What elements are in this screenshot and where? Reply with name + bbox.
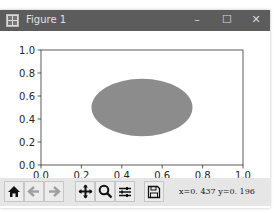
x-tick-label: 0.8 bbox=[195, 170, 211, 178]
maximize-button[interactable]: ☐ bbox=[218, 13, 236, 27]
home-icon bbox=[7, 185, 21, 198]
figure-canvas[interactable]: 0.00.20.40.60.81.00.00.20.40.60.81.0 bbox=[0, 31, 270, 178]
zoom-button[interactable] bbox=[95, 181, 115, 202]
x-tick-label: 0.6 bbox=[154, 170, 170, 178]
magnifier-icon bbox=[98, 184, 113, 199]
matplotlib-app-icon bbox=[6, 14, 19, 27]
minimize-button[interactable]: – bbox=[188, 13, 206, 27]
y-tick-label: 0.0 bbox=[19, 160, 35, 171]
y-tick-label: 0.8 bbox=[19, 68, 35, 79]
y-tick-label: 1.0 bbox=[19, 45, 35, 56]
forward-button[interactable] bbox=[44, 181, 64, 202]
ellipse-patch bbox=[92, 79, 193, 137]
move-icon bbox=[78, 184, 93, 199]
pan-button[interactable] bbox=[75, 181, 95, 202]
plot-svg[interactable]: 0.00.20.40.60.81.00.00.20.40.60.81.0 bbox=[0, 31, 270, 178]
x-tick-label: 1.0 bbox=[235, 170, 251, 178]
y-tick-label: 0.4 bbox=[19, 114, 35, 125]
back-button[interactable] bbox=[24, 181, 44, 202]
close-button[interactable]: ✕ bbox=[247, 13, 265, 27]
home-button[interactable] bbox=[4, 181, 24, 202]
save-button[interactable] bbox=[144, 181, 164, 202]
title-bar[interactable]: Figure 1 – ☐ ✕ bbox=[0, 10, 270, 31]
x-tick-label: 0.2 bbox=[73, 170, 89, 178]
arrow-right-icon bbox=[47, 185, 61, 198]
cursor-coordinates: x=0. 437 y=0. 196 bbox=[179, 187, 255, 196]
navigation-toolbar: x=0. 437 y=0. 196 bbox=[0, 178, 270, 206]
floppy-disk-icon bbox=[147, 185, 161, 199]
configure-subplots-button[interactable] bbox=[115, 181, 135, 202]
window-title: Figure 1 bbox=[26, 14, 66, 26]
figure-window: Figure 1 – ☐ ✕ 0.00.20.40.60.81.00.00.20… bbox=[0, 10, 270, 208]
x-tick-label: 0.0 bbox=[33, 170, 49, 178]
y-tick-label: 0.2 bbox=[19, 137, 35, 148]
arrow-left-icon bbox=[27, 185, 41, 198]
y-tick-label: 0.6 bbox=[19, 91, 35, 102]
sliders-icon bbox=[118, 185, 132, 199]
x-tick-label: 0.4 bbox=[114, 170, 130, 178]
